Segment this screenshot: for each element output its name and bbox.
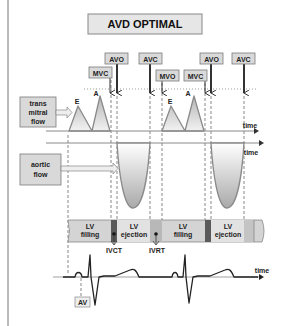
av-delay-label: AV: [75, 297, 90, 307]
svg-text:AVO: AVO: [204, 56, 219, 63]
svg-text:time: time: [243, 122, 258, 129]
title-text: AVD OPTIMAL: [108, 18, 183, 30]
svg-text:MVC: MVC: [93, 70, 109, 77]
svg-text:MVO: MVO: [160, 73, 177, 80]
title-box: AVD OPTIMAL: [88, 14, 202, 34]
ecg-time-label: time: [255, 267, 270, 274]
event-label-avo-2: AVO: [200, 53, 223, 64]
svg-text:AVC: AVC: [143, 56, 157, 63]
svg-text:flow: flow: [31, 118, 46, 125]
event-label-mvc-2: MVC: [184, 70, 207, 81]
event-label-mvo: MVO: [156, 70, 179, 81]
event-label-avo-1: AVO: [105, 53, 128, 64]
wave-a-1: A: [93, 90, 98, 97]
wave-a-2: A: [185, 90, 190, 97]
lv-phase-4-line2: ejection: [215, 231, 241, 239]
svg-text:time: time: [244, 149, 259, 156]
aortic-pointer-arrow: [61, 163, 118, 174]
lv-phase-2-line1: LV: [130, 223, 139, 230]
wave-e-2: E: [168, 98, 173, 105]
lv-phase-1-line2: filling: [81, 231, 100, 239]
lv-phase-1-line1: LV: [86, 223, 95, 230]
aortic-waveform: [117, 143, 244, 208]
wave-e-1: E: [75, 98, 80, 105]
svg-text:IVRT: IVRT: [149, 247, 166, 254]
avd-optimal-diagram: AVD OPTIMAL MVC AVO AVC MVO: [0, 0, 286, 326]
svg-text:AVO: AVO: [109, 56, 124, 63]
lv-phase-4-line1: LV: [224, 223, 233, 230]
event-label-mvc-1: MVC: [89, 67, 112, 78]
lv-phase-3-line1: LV: [179, 223, 188, 230]
lv-phase-bar: LV filling LV ejection LV filling LV eje…: [68, 220, 264, 242]
svg-text:AV: AV: [78, 299, 88, 306]
event-label-avc-1: AVC: [139, 53, 162, 64]
svg-text:AVC: AVC: [236, 56, 250, 63]
transmitral-pointer-arrow: [56, 107, 72, 118]
aortic-flow-label: aortic flow: [20, 154, 61, 185]
lv-phase-2-line2: ejection: [121, 231, 147, 239]
svg-text:flow: flow: [34, 171, 49, 178]
svg-text:aortic: aortic: [31, 161, 50, 168]
svg-text:mitral: mitral: [28, 109, 47, 116]
transmitral-waveform: E A E A: [69, 90, 204, 131]
svg-text:IVCT: IVCT: [106, 247, 123, 254]
transmitral-flow-label: trans mitral flow: [20, 97, 56, 127]
svg-text:trans: trans: [29, 100, 46, 107]
svg-text:MVC: MVC: [188, 73, 204, 80]
event-label-avc-2: AVC: [232, 53, 255, 64]
lv-phase-3-line2: filling: [174, 231, 193, 239]
